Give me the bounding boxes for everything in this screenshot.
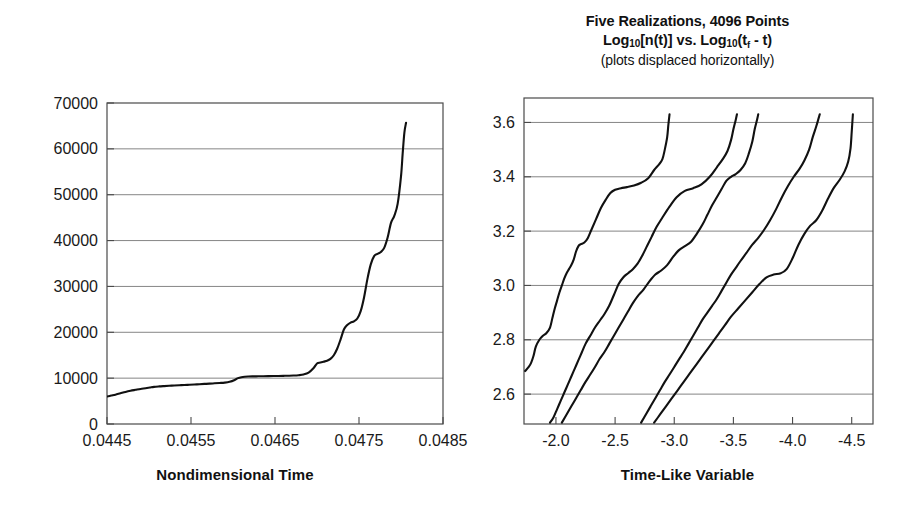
ytick-label-0: 0: [89, 416, 98, 433]
ytick-label-5: 3.6: [493, 114, 515, 131]
title-log-2-subscript: 10: [727, 38, 738, 49]
data-lines-group: [525, 114, 853, 422]
title-nt-vs-log: [n(t)] vs. Log: [640, 32, 726, 48]
ytick-label-2: 20000: [54, 324, 99, 341]
data-line-3: [562, 114, 758, 422]
xtick-label-0: 0.0445: [83, 432, 132, 449]
right-chart-title-line1: Five Realizations, 4096 Points: [470, 12, 905, 31]
left-xaxis-title: Nondimensional Time: [0, 466, 470, 483]
data-line-2: [550, 114, 737, 422]
ytick-label-2: 3.0: [493, 277, 515, 294]
ytick-label-3: 30000: [54, 278, 99, 295]
xtick-label-4: -4.0: [779, 432, 807, 449]
data-line-5: [654, 114, 853, 422]
ytick-label-1: 2.8: [493, 331, 515, 348]
left-chart-panel: 0100002000030000400005000060000700000.04…: [0, 0, 470, 513]
xtick-label-5: -4.5: [838, 432, 866, 449]
ytick-label-3: 3.2: [493, 223, 515, 240]
xtick-label-4: 0.0485: [419, 432, 468, 449]
data-line-1: [107, 123, 406, 397]
xtick-label-2: 0.0465: [251, 432, 300, 449]
ytick-label-0: 2.6: [493, 386, 515, 403]
left-chart-svg: 0100002000030000400005000060000700000.04…: [0, 0, 470, 460]
xtick-label-3: 0.0475: [335, 432, 384, 449]
figure-container: 0100002000030000400005000060000700000.04…: [0, 0, 905, 513]
xtick-label-3: -3.5: [720, 432, 748, 449]
title-tf-open: (t: [737, 32, 746, 48]
right-chart-subtitle: (plots displaced horizontally): [470, 51, 905, 70]
data-lines-group: [107, 123, 406, 397]
title-log-1-subscript: 10: [629, 38, 640, 49]
data-line-4: [641, 114, 820, 422]
xtick-label-0: -2.0: [542, 432, 570, 449]
xtick-label-1: -2.5: [601, 432, 629, 449]
ytick-label-4: 3.4: [493, 168, 515, 185]
plot-frame: [524, 98, 873, 424]
ytick-label-4: 40000: [54, 232, 99, 249]
right-chart-panel: Five Realizations, 4096 Points Log10[n(t…: [470, 0, 905, 513]
title-log-1: Log: [603, 32, 629, 48]
ytick-label-1: 10000: [54, 370, 99, 387]
xtick-label-1: 0.0455: [167, 432, 216, 449]
right-xaxis-title: Time-Like Variable: [470, 466, 905, 483]
xtick-label-2: -3.0: [660, 432, 688, 449]
ytick-label-5: 50000: [54, 186, 99, 203]
ytick-label-7: 70000: [54, 95, 99, 112]
title-minus-t: - t): [750, 32, 772, 48]
ytick-label-6: 60000: [54, 140, 99, 157]
